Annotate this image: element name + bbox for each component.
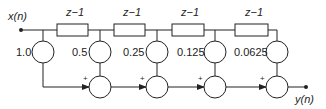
delay-element-1: z−1 — [57, 6, 88, 36]
delay-element-2: z−1 — [114, 6, 145, 36]
multiplier-2: 0.5 — [72, 41, 111, 63]
multiplier-4: 0.125 — [177, 41, 226, 63]
output-node — [304, 85, 308, 89]
svg-text:0.5: 0.5 — [72, 46, 87, 58]
multiplier-5: 0.0625 — [234, 41, 288, 63]
svg-text:+: + — [140, 74, 145, 83]
adder-1: + — [83, 74, 111, 98]
svg-text:z−1: z−1 — [122, 6, 141, 18]
svg-text:1.0: 1.0 — [16, 46, 31, 58]
svg-text:z−1: z−1 — [244, 6, 263, 18]
svg-text:+: + — [83, 74, 88, 83]
output-label: y(n) — [294, 93, 314, 105]
svg-text:0.0625: 0.0625 — [234, 46, 268, 58]
input-label: x(n) — [7, 10, 27, 22]
svg-text:0.25: 0.25 — [123, 46, 144, 58]
delay-element-4: z−1 — [235, 6, 268, 36]
multiplier-1: 1.0 — [16, 41, 54, 63]
svg-text:+: + — [260, 74, 265, 83]
delay-element-3: z−1 — [172, 6, 204, 36]
adder-4: + — [260, 74, 288, 98]
multiplier-outputs — [100, 63, 277, 76]
svg-text:z−1: z−1 — [65, 6, 84, 18]
svg-text:0.125: 0.125 — [177, 46, 205, 58]
svg-text:z−1: z−1 — [180, 6, 199, 18]
fir-filter-diagram: x(n) z−1 z−1 z−1 z−1 1.0 0.5 — [0, 0, 326, 109]
adder-3: + — [198, 74, 226, 98]
svg-text:+: + — [198, 74, 203, 83]
multiplier-3: 0.25 — [123, 41, 168, 63]
adder-2: + — [140, 74, 168, 98]
